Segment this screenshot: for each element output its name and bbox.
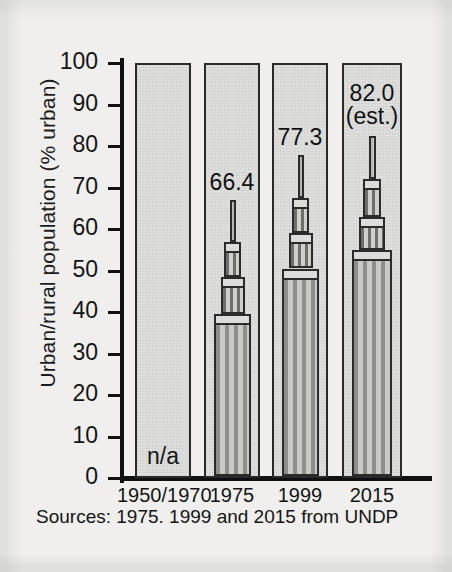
scanned-figure: Urban/rural population (% urban) 1009080… bbox=[0, 0, 452, 572]
building-tier-2 bbox=[224, 242, 241, 277]
building-setback-cap bbox=[365, 181, 379, 190]
y-tick-label: 60 bbox=[24, 216, 98, 239]
y-tick-label: 80 bbox=[24, 133, 98, 156]
bar-value: 77.3 bbox=[266, 126, 334, 149]
no-data-label: n/a bbox=[137, 443, 189, 470]
building-spire bbox=[230, 200, 236, 241]
figure-paper: Urban/rural population (% urban) 1009080… bbox=[8, 6, 444, 562]
bar-value-label-1975: 66.4 bbox=[198, 171, 266, 194]
y-tick-label: 70 bbox=[24, 175, 98, 198]
y-tick-mark bbox=[108, 311, 122, 314]
building-spire bbox=[298, 155, 304, 198]
building-setback-cap bbox=[361, 219, 383, 228]
y-tick-mark bbox=[108, 477, 122, 480]
building-spire bbox=[369, 136, 376, 180]
bar-value-note: (est.) bbox=[336, 105, 408, 128]
chart-plot-area: Urban/rural population (% urban) 1009080… bbox=[8, 6, 444, 562]
y-tick-label: 10 bbox=[24, 424, 98, 447]
y-tick-label: 50 bbox=[24, 258, 98, 281]
bar-value: 82.0 bbox=[336, 82, 408, 105]
building-tier-2 bbox=[363, 179, 381, 216]
building-setback-cap bbox=[226, 244, 239, 253]
bar-value: 66.4 bbox=[198, 171, 266, 194]
building-setback-cap bbox=[294, 200, 307, 209]
source-note: Sources: 1975. 1999 and 2015 from UNDP bbox=[36, 506, 398, 528]
y-tick-mark bbox=[108, 436, 122, 439]
bar-value-label-1999: 77.3 bbox=[266, 126, 334, 149]
panel-texture bbox=[137, 65, 189, 476]
building-setback-cap bbox=[223, 279, 243, 288]
building-bar-1975[interactable] bbox=[214, 61, 251, 476]
y-tick-mark bbox=[108, 228, 122, 231]
y-tick-label: 20 bbox=[24, 382, 98, 405]
building-base bbox=[282, 269, 319, 477]
y-tick-mark bbox=[108, 62, 122, 65]
building-tier-2 bbox=[292, 198, 309, 233]
y-tick-label: 30 bbox=[24, 341, 98, 364]
y-tick-label: 40 bbox=[24, 299, 98, 322]
building-tier-1 bbox=[221, 277, 245, 314]
y-tick-label: 90 bbox=[24, 92, 98, 115]
y-tick-label: 0 bbox=[24, 465, 98, 488]
bar-value-label-2015: 82.0(est.) bbox=[336, 82, 408, 129]
building-base bbox=[214, 314, 251, 476]
y-tick-mark bbox=[108, 394, 122, 397]
building-setback-cap bbox=[354, 252, 390, 261]
y-tick-mark bbox=[108, 187, 122, 190]
building-setback-cap bbox=[284, 271, 317, 280]
building-setback-cap bbox=[216, 316, 249, 325]
x-axis-label-2015: 2015 bbox=[324, 484, 420, 507]
chart-panel-1950-1970[interactable]: n/a bbox=[135, 63, 191, 478]
building-base bbox=[352, 250, 392, 476]
chart-panel-1975[interactable] bbox=[204, 63, 260, 478]
building-tier-1 bbox=[359, 217, 385, 250]
y-tick-mark bbox=[108, 270, 122, 273]
y-tick-mark bbox=[108, 104, 122, 107]
y-tick-mark bbox=[108, 353, 122, 356]
building-tier-1 bbox=[289, 233, 313, 268]
y-tick-mark bbox=[108, 145, 122, 148]
y-tick-label: 100 bbox=[24, 50, 98, 73]
building-setback-cap bbox=[291, 235, 311, 244]
